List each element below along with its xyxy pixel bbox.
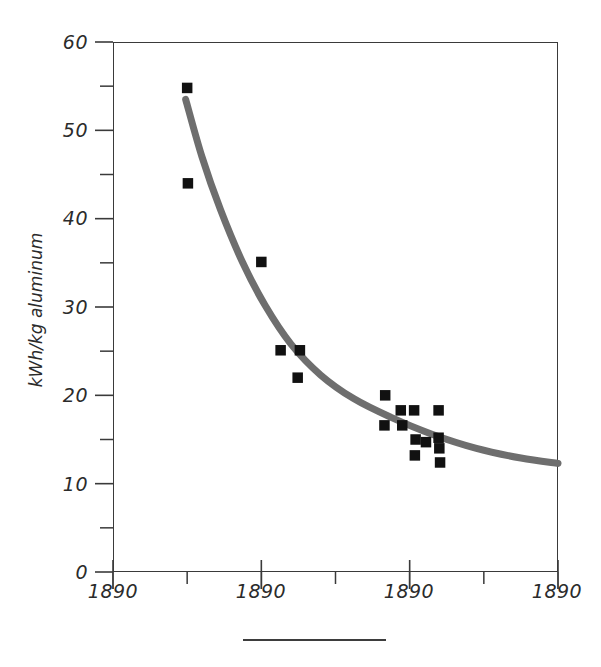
x-axis-ticks (113, 560, 558, 589)
data-point-marker (410, 450, 421, 461)
data-point-marker (434, 443, 445, 454)
x-tick-label-0: 1890 (68, 580, 158, 602)
data-point-marker (380, 390, 391, 401)
data-point-marker (410, 434, 421, 445)
data-point-marker (275, 345, 286, 356)
x-tick-label-1: 1890 (216, 580, 306, 602)
y-tick-label-50: 50 (36, 119, 88, 141)
data-point-marker (292, 372, 303, 383)
x-tick-label-3: 1890 (512, 580, 601, 602)
data-point-marker (256, 257, 267, 268)
data-point-marker (435, 457, 446, 468)
data-point-marker (183, 178, 194, 189)
trend-curve (186, 99, 558, 463)
data-point-marker (396, 405, 407, 416)
x-tick-label-2: 1890 (364, 580, 454, 602)
y-axis-title: kWh/kg aluminum (26, 210, 46, 410)
data-point-marker (433, 432, 444, 443)
data-point-marker (409, 405, 420, 416)
y-tick-label-10: 10 (36, 473, 88, 495)
chart-page: 60 50 40 30 20 10 0 kWh/kg aluminum 1890… (0, 0, 601, 667)
y-axis-ticks (95, 42, 113, 572)
data-point-marker (433, 405, 444, 416)
data-point-marker (379, 420, 390, 431)
caption-separator-rule (243, 639, 386, 641)
y-tick-label-60: 60 (36, 31, 88, 53)
data-point-marker (397, 420, 408, 431)
data-point-markers (182, 83, 445, 468)
data-point-marker (182, 83, 193, 94)
data-point-marker (421, 437, 432, 448)
data-point-marker (295, 345, 306, 356)
chart-canvas (0, 0, 601, 667)
